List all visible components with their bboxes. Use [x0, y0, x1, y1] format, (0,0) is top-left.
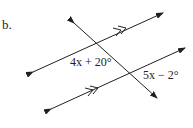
- parallel-lines-diagram: b. 4x + 20° 5x − 2°: [0, 0, 193, 128]
- angle-label-bottom: 5x − 2°: [143, 68, 179, 82]
- angle-label-top: 4x + 20°: [70, 55, 112, 69]
- part-label: b.: [2, 17, 12, 32]
